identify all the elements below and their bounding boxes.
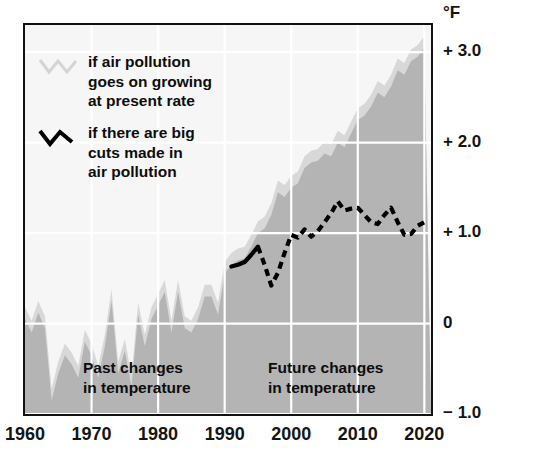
x-axis-labels: 1960 1970 1980 1990 2000 2010 2020 (0, 424, 555, 452)
zigzag-dark-icon (38, 125, 78, 149)
y-tick-label-3: + 3.0 (443, 41, 481, 61)
y-axis-unit-label: °F (443, 3, 460, 23)
y-axis-labels: °F + 3.0 + 2.0 + 1.0 0 − 1.0 (437, 0, 555, 457)
legend-label-growing-pollution: if air pollution goes on growing at pres… (88, 52, 212, 111)
legend-item-big-cuts: if there are big cuts made in air pollut… (38, 123, 258, 182)
temperature-projection-chart: if air pollution goes on growing at pres… (0, 0, 555, 457)
caption-future-changes: Future changes in temperature (268, 358, 383, 397)
x-tick-label-2000: 2000 (271, 424, 311, 445)
x-tick-label-1990: 1990 (205, 424, 245, 445)
legend-item-growing-pollution: if air pollution goes on growing at pres… (38, 52, 258, 111)
zigzag-light-icon (38, 54, 78, 78)
x-tick-label-1970: 1970 (72, 424, 112, 445)
x-tick-label-2020: 2020 (404, 424, 444, 445)
x-tick-label-2010: 2010 (338, 424, 378, 445)
y-tick-label-2: + 2.0 (443, 132, 481, 152)
y-tick-label-neg1: − 1.0 (443, 403, 481, 423)
chart-legend: if air pollution goes on growing at pres… (38, 52, 258, 194)
legend-label-big-cuts: if there are big cuts made in air pollut… (88, 123, 195, 182)
x-tick-label-1980: 1980 (138, 424, 178, 445)
y-tick-label-1: + 1.0 (443, 222, 481, 242)
y-tick-label-0: 0 (443, 313, 452, 333)
caption-past-changes: Past changes in temperature (83, 358, 191, 397)
x-tick-label-1960: 1960 (5, 424, 45, 445)
